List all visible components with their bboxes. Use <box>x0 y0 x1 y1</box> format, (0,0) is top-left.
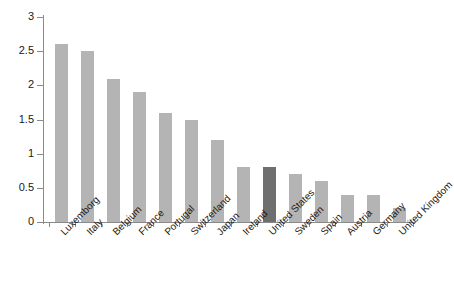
y-axis-tick <box>37 222 43 223</box>
y-axis-tick <box>37 154 43 155</box>
bar-france[interactable] <box>133 92 146 222</box>
plot-area <box>44 17 416 222</box>
bar-belgium[interactable] <box>107 79 120 223</box>
y-axis-tick-label: 0.5 <box>0 182 34 193</box>
y-axis-tick-label: 2.5 <box>0 45 34 56</box>
y-axis-tick-label: 2 <box>0 79 34 90</box>
y-axis-tick <box>37 17 43 18</box>
y-axis-tick-label: 1.5 <box>0 114 34 125</box>
bar-ireland[interactable] <box>237 167 250 222</box>
y-axis-tick-label: 1 <box>0 148 34 159</box>
y-axis-tick <box>37 51 43 52</box>
y-axis-tick <box>37 120 43 121</box>
y-axis-tick-label: 3 <box>0 11 34 22</box>
bar-luxemborg[interactable] <box>55 44 68 222</box>
y-axis-tick <box>37 188 43 189</box>
bar-portugal[interactable] <box>159 113 172 222</box>
x-axis-tick <box>49 223 50 227</box>
y-axis-tick <box>37 85 43 86</box>
y-axis-tick-label: 0 <box>0 216 34 227</box>
